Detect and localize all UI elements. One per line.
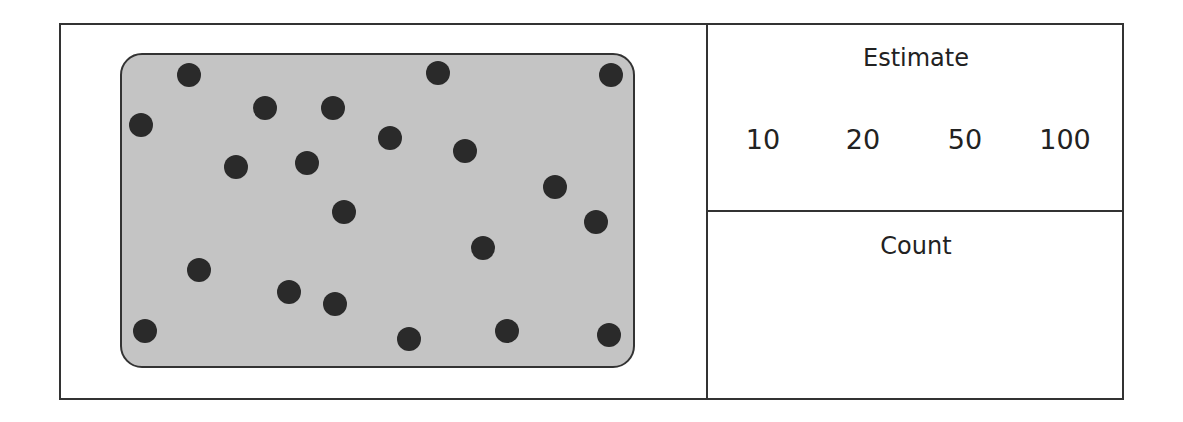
dot-icon xyxy=(277,280,301,304)
count-title: Count xyxy=(708,232,1124,260)
dot-icon xyxy=(495,319,519,343)
dot-icon xyxy=(597,323,621,347)
dot-icon xyxy=(584,210,608,234)
estimate-title: Estimate xyxy=(708,44,1124,72)
dot-icon xyxy=(323,292,347,316)
dot-icon xyxy=(133,319,157,343)
count-answer-area[interactable] xyxy=(708,270,1124,398)
estimate-options: 10 20 50 100 xyxy=(708,124,1124,158)
estimate-option-100[interactable]: 100 xyxy=(1039,124,1091,155)
dot-panel xyxy=(120,53,635,368)
dot-icon xyxy=(224,155,248,179)
dot-icon xyxy=(471,236,495,260)
dot-icon xyxy=(253,96,277,120)
dot-icon xyxy=(397,327,421,351)
dot-icon xyxy=(187,258,211,282)
dot-icon xyxy=(177,63,201,87)
dot-icon xyxy=(599,63,623,87)
horizontal-divider xyxy=(706,210,1124,212)
estimate-option-10[interactable]: 10 xyxy=(746,124,780,155)
dot-icon xyxy=(378,126,402,150)
dot-icon xyxy=(543,175,567,199)
dot-icon xyxy=(426,61,450,85)
dot-icon xyxy=(129,113,153,137)
estimate-option-50[interactable]: 50 xyxy=(948,124,982,155)
dot-icon xyxy=(453,139,477,163)
dot-icon xyxy=(295,151,319,175)
dot-icon xyxy=(332,200,356,224)
estimate-option-20[interactable]: 20 xyxy=(846,124,880,155)
dot-icon xyxy=(321,96,345,120)
